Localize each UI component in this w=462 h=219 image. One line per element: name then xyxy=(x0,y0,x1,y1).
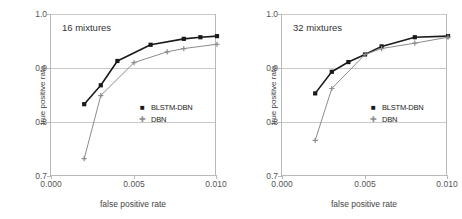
xtick-label-0.005: 0.005 xyxy=(123,179,144,189)
legend-label-dbn: DBN xyxy=(382,114,397,126)
data-point-marker-square xyxy=(115,59,119,63)
chart-panel-16-mixtures: 1.0 0.9 0.8 0.7 0.000 0.005 0.010 ■ BLST… xyxy=(0,0,231,219)
legend-item-dbn: ✚ DBN xyxy=(368,114,424,126)
plus-marker-icon: ✚ xyxy=(368,114,379,126)
legend-label-dbn: DBN xyxy=(151,114,166,126)
legend-item-blstm-dbn: ■ BLSTM-DBN xyxy=(368,102,424,114)
data-point-marker-square xyxy=(313,91,317,95)
x-axis-label-left: false positive rate xyxy=(51,199,215,209)
x-axis-label-right: false positive rate xyxy=(282,199,446,209)
y-axis-label-right: true positive rate xyxy=(269,65,278,124)
series-plot-right xyxy=(282,14,448,176)
data-point-marker-square xyxy=(346,60,350,64)
series-plot-left xyxy=(51,14,217,176)
legend-item-blstm-dbn: ■ BLSTM-DBN xyxy=(137,102,193,114)
data-point-marker-plus xyxy=(165,49,170,54)
ytick-label-1.0: 1.0 xyxy=(266,9,278,19)
data-point-marker-plus xyxy=(412,41,417,46)
data-point-marker-plus xyxy=(82,156,87,161)
square-marker-icon: ■ xyxy=(368,102,379,114)
xtick-label-0.010: 0.010 xyxy=(205,179,226,189)
roc-figure: 1.0 0.9 0.8 0.7 0.000 0.005 0.010 ■ BLST… xyxy=(0,0,462,219)
data-point-marker-square xyxy=(182,37,186,41)
legend-label-blstm-dbn: BLSTM-DBN xyxy=(382,102,424,114)
data-point-marker-square xyxy=(413,35,417,39)
plot-area-left: 1.0 0.9 0.8 0.7 0.000 0.005 0.010 ■ BLST… xyxy=(50,14,216,176)
xtick-label-0.010: 0.010 xyxy=(436,179,457,189)
square-marker-icon: ■ xyxy=(137,102,148,114)
data-point-marker-square xyxy=(198,35,202,39)
data-point-marker-square xyxy=(149,43,153,47)
panel-title-left: 16 mixtures xyxy=(62,22,111,33)
legend-item-dbn: ✚ DBN xyxy=(137,114,193,126)
chart-panel-32-mixtures: 1.0 0.9 0.8 0.7 0.000 0.005 0.010 ■ BLST… xyxy=(231,0,462,219)
legend-left: ■ BLSTM-DBN ✚ DBN xyxy=(137,102,193,126)
plus-marker-icon: ✚ xyxy=(137,114,148,126)
data-point-marker-square xyxy=(330,70,334,74)
data-point-marker-square xyxy=(99,83,103,87)
data-point-marker-square xyxy=(82,102,86,106)
data-point-marker-plus xyxy=(181,46,186,51)
xtick-label-0.000: 0.000 xyxy=(40,179,61,189)
y-axis-label-left: true positive rate xyxy=(38,65,47,124)
data-point-marker-square xyxy=(215,34,219,38)
xtick-label-0.005: 0.005 xyxy=(354,179,375,189)
xtick-label-0.000: 0.000 xyxy=(271,179,292,189)
legend-label-blstm-dbn: BLSTM-DBN xyxy=(151,102,193,114)
data-point-marker-plus xyxy=(313,138,318,143)
data-point-marker-plus xyxy=(214,42,219,47)
ytick-label-1.0: 1.0 xyxy=(35,9,47,19)
plot-area-right: 1.0 0.9 0.8 0.7 0.000 0.005 0.010 ■ BLST… xyxy=(281,14,447,176)
legend-right: ■ BLSTM-DBN ✚ DBN xyxy=(368,102,424,126)
panel-title-right: 32 mixtures xyxy=(293,22,342,33)
